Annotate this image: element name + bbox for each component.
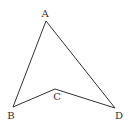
vertex-label-a: A: [40, 8, 49, 19]
vertex-label-d: D: [115, 110, 123, 121]
quadrilateral-diagram: A B C D: [0, 0, 129, 136]
quadrilateral-abcd: [13, 21, 115, 108]
vertex-label-b: B: [7, 110, 14, 121]
vertex-label-c: C: [53, 91, 61, 102]
